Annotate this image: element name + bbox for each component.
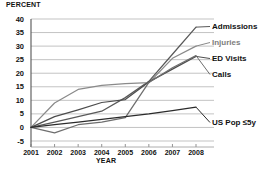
chart-container: PERCENT 4035302520151050-5 2001200220032…	[0, 0, 262, 169]
legend-item-admissions: Admissions	[212, 22, 257, 31]
y-axis-tick-label: 20	[6, 69, 24, 78]
y-axis-tick-label: 40	[6, 15, 24, 24]
y-axis-tick-label: 30	[6, 42, 24, 51]
series-lines	[31, 27, 196, 133]
y-axis-tick-label: 15	[6, 82, 24, 91]
x-axis-tick-label: 2003	[66, 149, 90, 156]
x-axis-tick-label: 2007	[160, 149, 184, 156]
y-axis-tick-label: 5	[6, 109, 24, 118]
y-axis-tick-label: 25	[6, 55, 24, 64]
y-axis-tick-label: 35	[6, 28, 24, 37]
y-axis-tick-label: -5	[6, 137, 24, 146]
x-axis-tick-label: 2001	[19, 149, 43, 156]
x-axis-title: YEAR	[96, 157, 116, 164]
legend-item-injuries: Injuries	[212, 38, 240, 47]
y-axis-tick-label: 10	[6, 96, 24, 105]
legend-line-stubs	[196, 27, 210, 123]
legend-item-ed-visits: ED Visits	[212, 54, 247, 63]
y-axis-tick-label: 0	[6, 123, 24, 132]
x-axis-tick-label: 2005	[113, 149, 137, 156]
x-axis-tick-label: 2004	[90, 149, 114, 156]
x-axis-tick-label: 2006	[137, 149, 161, 156]
legend-item-calls: Calls	[212, 70, 231, 79]
x-axis-tick-label: 2002	[43, 149, 67, 156]
x-axis-tick-label: 2008	[184, 149, 208, 156]
legend-item-us-pop-5y: US Pop ≤5y	[212, 118, 256, 127]
